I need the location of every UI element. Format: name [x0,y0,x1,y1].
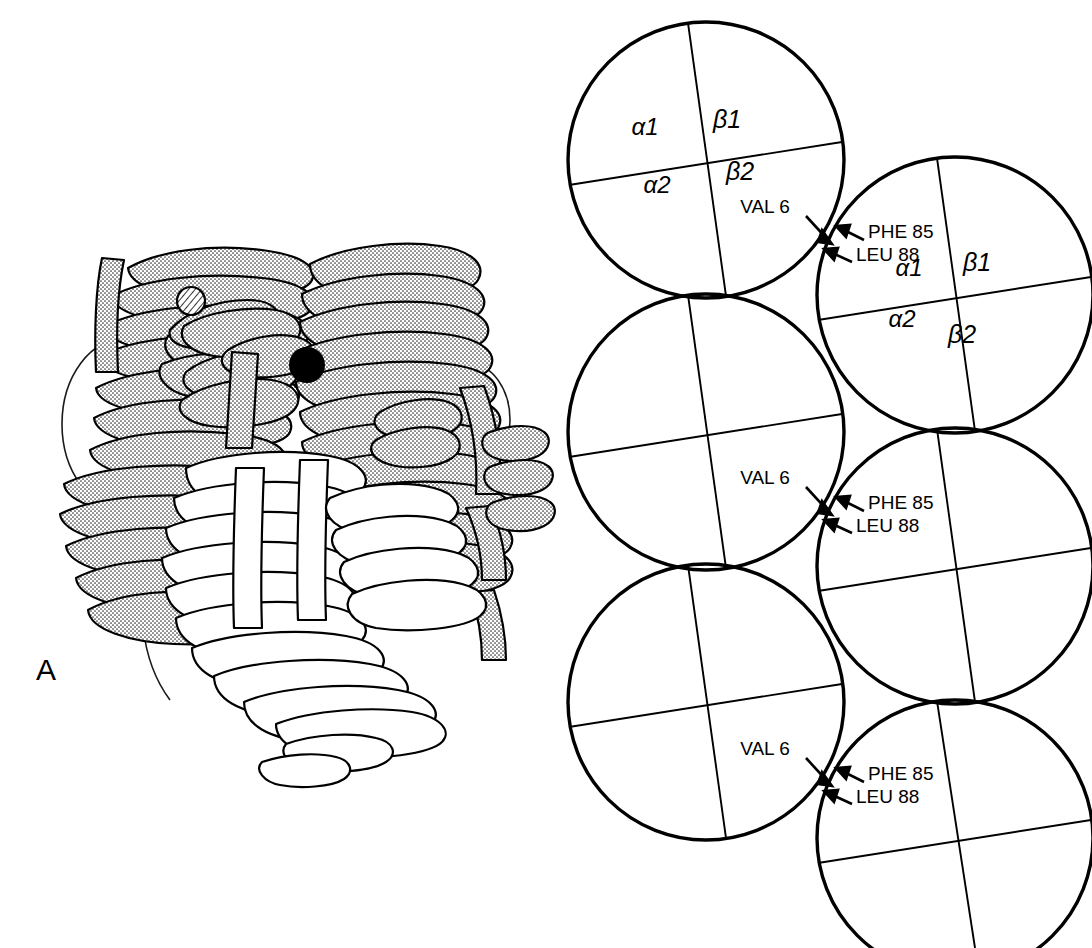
contact-label-val6-1: VAL 6 [740,196,790,217]
quadrant-dividers-right-1 [818,158,1091,431]
panel-a-hemoglobin-model: A [0,0,556,948]
quadrant-label-alpha2-right-1: α2 [888,305,915,332]
quadrant-label-beta1-left-1: β1 [712,105,741,133]
contact-label-leu88-1: LEU 88 [856,244,919,265]
quadrant-dividers-left-1 [569,23,842,296]
contact-label-phe85-3: PHE 85 [868,763,933,784]
quadrant-label-beta2-right-1: β2 [947,320,976,348]
quadrant-label-beta1-right-1: β1 [962,248,991,276]
contact-label-leu88-2: LEU 88 [856,515,919,536]
panel-b-fiber-schematic: α1 β1 α2 β2 α1 β1 α2 β2 VAL 6 PHE 85 LEU… [536,0,1092,948]
contact-arrows [806,216,864,804]
panel-a-letter: A [36,655,57,685]
contact-label-phe85-1: PHE 85 [868,221,933,242]
tetramer-unit-left-2 [568,294,844,570]
figure-root: A [0,0,1092,948]
hatched-residue-marker [177,287,205,315]
filled-residue-marker [290,348,324,382]
contact-label-val6-3: VAL 6 [740,738,790,759]
lower-unshaded-subunits [162,452,486,787]
panel-b-drawing: α1 β1 α2 β2 α1 β1 α2 β2 VAL 6 PHE 85 LEU… [536,0,1092,948]
panel-a-drawing [0,0,556,948]
quadrant-dividers-left-3 [569,565,842,838]
contact-label-phe85-2: PHE 85 [868,492,933,513]
tetramer-unit-right-1 [817,157,1092,433]
contact-label-val6-2: VAL 6 [740,467,790,488]
quadrant-dividers-right-2 [818,429,1091,702]
tetramer-unit-right-3 [817,700,1092,948]
quadrant-dividers-left-2 [569,295,842,568]
contact-label-leu88-3: LEU 88 [856,786,919,807]
tetramer-unit-right-2 [817,428,1092,704]
tetramer-unit-left-3 [568,564,844,840]
quadrant-label-alpha1-left-1: α1 [631,113,658,140]
quadrant-label-beta2-left-1: β2 [725,157,754,185]
quadrant-label-alpha2-left-1: α2 [643,171,670,198]
tetramer-unit-left-1 [568,22,844,298]
